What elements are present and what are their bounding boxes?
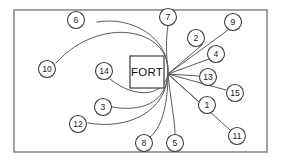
node-label-8: 8 [142, 138, 147, 148]
node-marker-7[interactable]: 7 [160, 9, 177, 26]
node-marker-14[interactable]: 14 [96, 63, 113, 80]
node-marker-5[interactable]: 5 [167, 135, 184, 152]
node-label-15: 15 [230, 88, 240, 98]
node-label-12: 12 [73, 119, 83, 129]
node-marker-8[interactable]: 8 [136, 135, 153, 152]
node-marker-9[interactable]: 9 [225, 14, 242, 31]
node-marker-6[interactable]: 6 [68, 12, 85, 29]
fort-route-diagram: FORT 123456789101112131415 [0, 0, 281, 164]
node-marker-13[interactable]: 13 [200, 69, 217, 86]
node-marker-2[interactable]: 2 [188, 30, 205, 47]
diagram-canvas: FORT 123456789101112131415 [0, 0, 281, 164]
node-marker-3[interactable]: 3 [95, 99, 112, 116]
node-label-6: 6 [74, 15, 79, 25]
node-label-9: 9 [231, 17, 236, 27]
node-label-13: 13 [203, 72, 213, 82]
node-marker-15[interactable]: 15 [227, 85, 244, 102]
node-label-7: 7 [166, 12, 171, 22]
node-marker-10[interactable]: 10 [39, 61, 56, 78]
node-label-4: 4 [214, 49, 219, 59]
node-label-10: 10 [42, 64, 52, 74]
node-marker-4[interactable]: 4 [208, 46, 225, 63]
fort-box-group: FORT [130, 56, 164, 88]
node-label-14: 14 [99, 66, 109, 76]
node-label-11: 11 [233, 131, 242, 141]
node-label-1: 1 [205, 100, 210, 110]
node-label-3: 3 [101, 102, 106, 112]
node-label-2: 2 [194, 33, 199, 43]
node-marker-11[interactable]: 11 [229, 128, 246, 145]
node-label-5: 5 [173, 138, 178, 148]
fort-box-label: FORT [131, 66, 163, 78]
route-line-5[interactable] [168, 74, 175, 134]
node-marker-12[interactable]: 12 [70, 116, 87, 133]
node-marker-1[interactable]: 1 [199, 97, 216, 114]
